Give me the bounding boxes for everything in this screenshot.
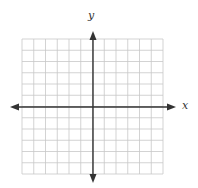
arrow-down-icon: [90, 174, 97, 183]
x-axis-label: x: [182, 100, 188, 111]
y-axis-label: y: [88, 10, 94, 21]
arrow-up-icon: [90, 31, 97, 40]
arrow-left-icon: [10, 104, 19, 111]
arrow-right-icon: [167, 104, 176, 111]
coordinate-plane: [0, 0, 198, 188]
